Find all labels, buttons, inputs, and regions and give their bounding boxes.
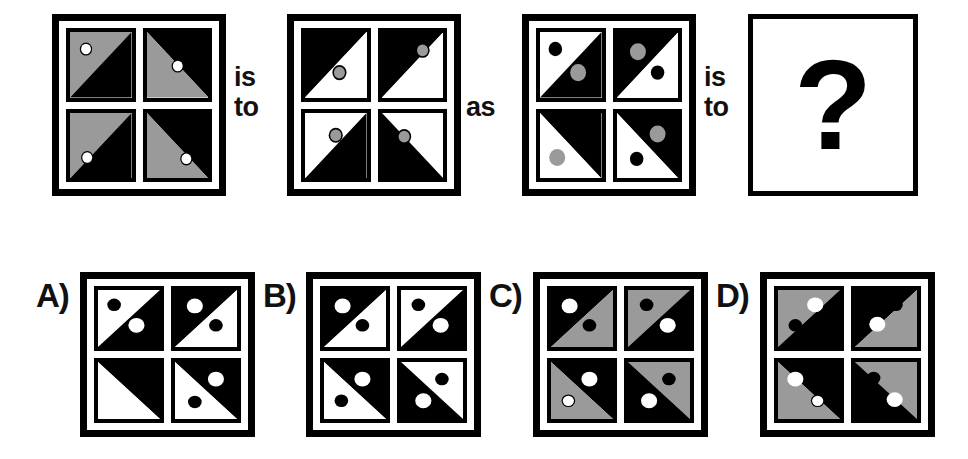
dot-1: [890, 300, 901, 310]
figure-cell-graphic: [98, 362, 160, 419]
figure-cell: [774, 358, 844, 423]
dot-1: [335, 299, 351, 314]
figure-cell: [851, 286, 921, 351]
dot-1: [334, 67, 345, 79]
stimulus-panel-3: [522, 14, 696, 196]
figure-cell-graphic: [551, 290, 613, 347]
figure-cell-graphic: [147, 32, 209, 98]
option-a-panel[interactable]: [80, 272, 255, 437]
dot-2: [336, 396, 347, 406]
connector-line-1: as: [466, 92, 495, 122]
dot-1: [398, 130, 409, 142]
figure-cell: [320, 358, 390, 423]
dot-2: [660, 318, 676, 333]
connector-as: as: [466, 92, 495, 122]
dot-2: [584, 320, 595, 330]
dot-1: [417, 44, 428, 56]
connector-line-1: is: [234, 62, 258, 92]
dot-1: [81, 44, 91, 54]
figure-cell-graphic: [147, 113, 209, 179]
figure-cell: [301, 28, 371, 102]
dot-1: [436, 374, 447, 384]
figure-cell: [320, 286, 390, 351]
figure-cell-graphic: [401, 362, 463, 419]
connector-line-1: is: [704, 62, 728, 92]
figure-cell: [66, 109, 136, 183]
dot-1: [581, 372, 597, 387]
dot-1: [131, 374, 142, 384]
figure-cell: [378, 28, 448, 102]
dot-2: [107, 393, 123, 408]
figure-cell-graphic: [540, 113, 602, 179]
dot-2: [128, 318, 144, 333]
figure-cell: [378, 109, 448, 183]
answer-placeholder-box: ?: [748, 14, 918, 196]
option-d-panel[interactable]: [760, 272, 935, 437]
dot-1: [550, 43, 561, 55]
figure-cell-graphic: [855, 362, 917, 419]
figure-cell-graphic: [382, 113, 444, 179]
dot-2: [570, 64, 586, 81]
figure-cell-graphic: [305, 32, 367, 98]
dot-1: [181, 153, 191, 163]
figure-cell: [94, 358, 164, 423]
option-c-panel[interactable]: [533, 272, 708, 437]
figure-cell-graphic: [305, 113, 367, 179]
figure-cell: [624, 358, 694, 423]
figure-cell: [397, 358, 467, 423]
dot-1: [354, 372, 370, 387]
figure-cell-graphic: [382, 32, 444, 98]
figure-cell-graphic: [617, 32, 679, 98]
question-mark-glyph: ?: [794, 41, 872, 169]
figure-cell: [536, 109, 606, 183]
dot-1: [787, 372, 803, 387]
dot-1: [649, 125, 665, 142]
figure-cell: [547, 358, 617, 423]
dot-1: [187, 299, 203, 314]
figure-cell: [171, 286, 241, 351]
cell-grid: [547, 286, 694, 423]
figure-cell-graphic: [551, 362, 613, 419]
dot-2: [563, 396, 574, 406]
figure-cell-graphic: [70, 113, 132, 179]
figure-cell: [613, 28, 683, 102]
cell-grid: [536, 28, 682, 182]
dot-1: [82, 152, 92, 162]
option-c-label: C): [489, 277, 522, 315]
option-b-panel[interactable]: [306, 272, 481, 437]
figure-cell-graphic: [617, 113, 679, 179]
figure-cell: [851, 358, 921, 423]
figure-cell: [624, 286, 694, 351]
figure-cell-graphic: [98, 290, 160, 347]
option-a-label: A): [36, 277, 69, 315]
dot-1: [208, 372, 224, 387]
figure-cell-graphic: [324, 290, 386, 347]
figure-cell: [143, 109, 213, 183]
cell-grid: [774, 286, 921, 423]
dot-1: [573, 126, 584, 138]
connector-is-to-2: is to: [704, 62, 728, 122]
cell-grid: [94, 286, 241, 423]
figure-cell: [613, 109, 683, 183]
dot-2: [812, 396, 823, 406]
dot-2: [210, 320, 221, 330]
connector-is-to-1: is to: [234, 62, 258, 122]
figure-cell-graphic: [628, 290, 690, 347]
dot-2: [357, 320, 368, 330]
figure-cell: [94, 286, 164, 351]
figure-cell-graphic: [324, 362, 386, 419]
dot-2: [415, 393, 431, 408]
option-b-label: B): [263, 277, 296, 315]
dot-1: [330, 129, 341, 141]
figure-cell-graphic: [540, 32, 602, 98]
dot-2: [652, 67, 663, 79]
figure-cell-graphic: [628, 362, 690, 419]
dot-2: [641, 393, 657, 408]
figure-cell-graphic: [70, 32, 132, 98]
figure-cell: [66, 28, 136, 102]
dot-2: [790, 320, 801, 330]
option-d-label: D): [716, 277, 749, 315]
dot-2: [869, 317, 885, 332]
figure-cell: [547, 286, 617, 351]
stimulus-panel-2: [287, 14, 461, 196]
